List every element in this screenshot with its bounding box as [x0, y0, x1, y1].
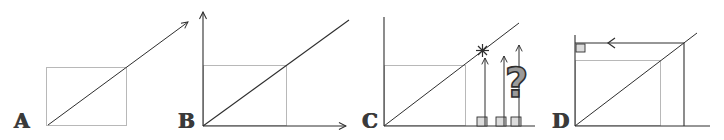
panel-a-diagonal-arrow: [48, 22, 188, 125]
panel-b-diagonal-line: [203, 20, 349, 126]
panel-label-d: D: [552, 111, 569, 131]
panel-label-a: A: [14, 111, 30, 131]
panel-c-diagonal-line: [384, 23, 519, 126]
panel-d-diagonal-line: [575, 33, 697, 126]
sketch-diagram: A B C D ?: [0, 0, 724, 140]
panel-c-intersection-star-icon: [476, 44, 489, 57]
panel-label-c: C: [362, 111, 378, 131]
panel-a: [47, 22, 189, 126]
panel-b: [203, 12, 349, 126]
panel-d-right-angle-marker: [576, 44, 585, 52]
panel-d: [575, 33, 710, 126]
panel-label-b: B: [178, 111, 195, 131]
question-mark-icon: ?: [505, 63, 528, 103]
